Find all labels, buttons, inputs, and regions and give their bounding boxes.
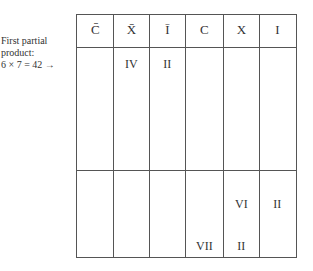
header-x: X xyxy=(223,22,260,38)
header-c-bar: C̄ xyxy=(77,22,114,38)
header-c: C xyxy=(186,22,223,38)
cell-x-row3: II xyxy=(223,239,260,254)
header-i: I xyxy=(259,22,296,38)
header-i-bar: Ī xyxy=(149,22,186,38)
column-divider xyxy=(113,15,114,257)
column-divider xyxy=(223,15,224,257)
cell-i-row2: II xyxy=(259,197,296,212)
cell-x-bar-row1: IV xyxy=(113,57,150,72)
caption-line-2: product: xyxy=(1,47,55,59)
header-x-bar: X̄ xyxy=(113,22,150,38)
partial-product-caption: First partial product: 6 × 7 = 42 → xyxy=(1,35,55,71)
column-divider xyxy=(185,15,186,257)
cell-i-bar-row1: II xyxy=(149,57,186,72)
cell-x-row2: VI xyxy=(223,197,260,212)
column-divider xyxy=(149,15,150,257)
caption-line-1: First partial xyxy=(1,35,55,47)
caption-line-3: 6 × 7 = 42 → xyxy=(1,59,55,71)
row-divider xyxy=(77,170,296,171)
counting-board-table: C̄ X̄ Ī C X I IV II VI II VII II xyxy=(76,14,297,258)
header-divider xyxy=(77,47,296,48)
cell-c-row3: VII xyxy=(186,239,223,254)
column-divider xyxy=(259,15,260,257)
